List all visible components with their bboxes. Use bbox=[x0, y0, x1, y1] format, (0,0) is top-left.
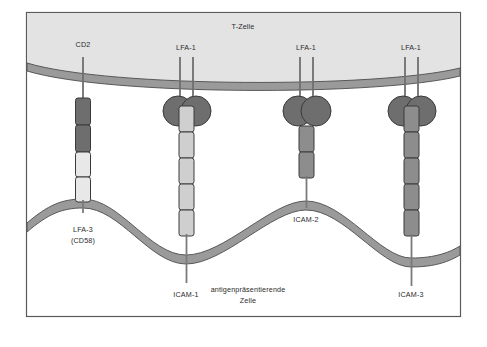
icam1-domain-5 bbox=[179, 210, 194, 236]
label-apc-line2: Zelle bbox=[240, 296, 256, 305]
label-cd58: (CD58) bbox=[71, 236, 95, 245]
label-cd2: CD2 bbox=[76, 40, 91, 49]
icam1-domain-1 bbox=[179, 106, 194, 132]
label-lfa3: LFA-3 bbox=[73, 225, 93, 234]
label-lfa1-left: LFA-1 bbox=[176, 43, 196, 52]
icam1-domain-2 bbox=[179, 132, 194, 158]
label-t-zelle: T-Zelle bbox=[231, 22, 254, 31]
icam3-domain-1 bbox=[404, 106, 419, 132]
cd2-domain-1 bbox=[76, 98, 91, 125]
label-icam3: ICAM-3 bbox=[398, 290, 423, 299]
label-apc-line1: antigenpräsentierende bbox=[211, 285, 286, 294]
icam3-domain-5 bbox=[404, 210, 419, 236]
figure-canvas: CD2 LFA-1 LFA-1 LFA-1 T-Zelle LFA-3 (CD5… bbox=[0, 0, 487, 347]
lfa1-icam2-head-beta bbox=[301, 96, 331, 126]
label-lfa1-mid: LFA-1 bbox=[296, 43, 316, 52]
cd2-domain-2 bbox=[76, 125, 91, 152]
icam3-domain-3 bbox=[404, 158, 419, 184]
lfa3-domain-1 bbox=[76, 152, 91, 177]
icam3-domain-2 bbox=[404, 132, 419, 158]
icam1-domain-4 bbox=[179, 184, 194, 210]
icam1-domain-3 bbox=[179, 158, 194, 184]
icam2-domain-1 bbox=[299, 126, 314, 152]
lfa3-domain-2 bbox=[76, 177, 91, 202]
icam2-domain-2 bbox=[299, 152, 314, 178]
icam3-domain-4 bbox=[404, 184, 419, 210]
label-icam2: ICAM-2 bbox=[293, 215, 318, 224]
label-lfa1-right: LFA-1 bbox=[401, 43, 421, 52]
label-icam1: ICAM-1 bbox=[173, 290, 198, 299]
immune-synapse-diagram: CD2 LFA-1 LFA-1 LFA-1 T-Zelle LFA-3 (CD5… bbox=[0, 0, 487, 347]
